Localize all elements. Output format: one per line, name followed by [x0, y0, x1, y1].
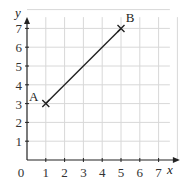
x-tick-label: 3: [80, 165, 87, 180]
x-tick-label: 7: [155, 165, 162, 180]
y-tick-label: 4: [16, 78, 23, 93]
x-tick-label: 2: [61, 165, 68, 180]
y-tick-label: 7: [16, 21, 23, 36]
x-tick-label: 5: [118, 165, 125, 180]
x-axis-label: x: [166, 162, 173, 177]
origin-label: 0: [18, 165, 25, 180]
x-tick-label: 1: [43, 165, 50, 180]
y-axis-arrow-icon: [24, 17, 30, 24]
x-axis-arrow-icon: [173, 157, 180, 163]
coordinate-grid-chart: 123456712345670xyAB: [0, 0, 190, 189]
y-tick-label: 5: [16, 59, 23, 74]
y-tick-label: 2: [16, 115, 23, 130]
y-tick-label: 6: [16, 40, 23, 55]
y-tick-label: 1: [16, 134, 23, 149]
x-tick-label: 6: [137, 165, 144, 180]
point-label-b: B: [126, 10, 135, 25]
point-label-a: A: [29, 89, 39, 104]
y-tick-label: 3: [16, 97, 23, 112]
x-tick-label: 4: [99, 165, 106, 180]
y-axis-label: y: [13, 5, 21, 20]
